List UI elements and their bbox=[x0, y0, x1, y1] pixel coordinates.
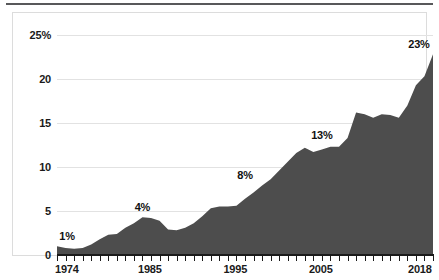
x-axis-tick bbox=[271, 256, 272, 261]
x-axis-tick bbox=[348, 256, 349, 261]
x-axis-tick bbox=[356, 256, 357, 261]
x-axis-tick bbox=[219, 256, 220, 261]
x-axis-tick bbox=[117, 256, 118, 261]
x-axis-tick bbox=[296, 256, 297, 261]
x-axis-tick bbox=[228, 256, 229, 261]
x-axis-tick bbox=[339, 256, 340, 261]
y-axis-tick-label: 20 bbox=[39, 73, 51, 85]
chart-figure: 25%20151050 1%4%8%13%23% 197419851995200… bbox=[12, 12, 427, 256]
x-axis-tick bbox=[134, 256, 135, 261]
x-axis-tick bbox=[125, 256, 126, 261]
top-divider-rule bbox=[6, 3, 433, 5]
x-axis-tick bbox=[168, 256, 169, 261]
y-axis-tick-label: 10 bbox=[39, 161, 51, 173]
x-axis-tick bbox=[433, 256, 434, 261]
x-axis-tick bbox=[365, 256, 366, 261]
x-axis-tick bbox=[236, 256, 237, 261]
figure-caption bbox=[12, 268, 427, 280]
x-axis-tick bbox=[74, 256, 75, 261]
x-axis-tick bbox=[262, 256, 263, 261]
plot-area: 1%4%8%13%23% bbox=[57, 35, 433, 255]
x-axis-tick bbox=[288, 256, 289, 261]
x-axis-tick bbox=[83, 256, 84, 261]
y-axis-tick-label: 5 bbox=[45, 205, 51, 217]
x-axis-tick bbox=[330, 256, 331, 261]
x-axis-tick bbox=[142, 256, 143, 261]
y-axis-tick-label: 25% bbox=[30, 29, 51, 41]
y-axis-tick-label: 15 bbox=[39, 117, 51, 129]
x-axis-tick bbox=[66, 256, 67, 261]
data-point-label: 23% bbox=[408, 38, 429, 50]
x-axis-tick bbox=[194, 256, 195, 261]
x-axis-tick bbox=[91, 256, 92, 261]
x-axis-tick bbox=[57, 256, 58, 261]
x-axis-tick bbox=[407, 256, 408, 261]
x-axis-tick bbox=[399, 256, 400, 261]
x-axis-tick bbox=[160, 256, 161, 261]
x-axis-tick bbox=[373, 256, 374, 261]
x-axis-tick bbox=[382, 256, 383, 261]
x-axis-tick bbox=[416, 256, 417, 261]
area-series bbox=[57, 35, 433, 255]
x-axis-tick bbox=[100, 256, 101, 261]
x-axis-tick bbox=[254, 256, 255, 261]
x-axis-tick bbox=[151, 256, 152, 261]
x-axis-tick bbox=[279, 256, 280, 261]
y-axis-tick-labels: 25%20151050 bbox=[23, 35, 51, 255]
y-axis-tick-label: 0 bbox=[45, 249, 51, 261]
x-axis-tick bbox=[305, 256, 306, 261]
data-point-label: 1% bbox=[59, 230, 75, 242]
x-axis-tick bbox=[177, 256, 178, 261]
x-axis-tick bbox=[108, 256, 109, 261]
data-point-label: 13% bbox=[311, 129, 332, 141]
x-axis-tick bbox=[245, 256, 246, 261]
x-axis-tick bbox=[322, 256, 323, 261]
x-axis-ticks bbox=[57, 256, 434, 262]
x-axis-tick bbox=[313, 256, 314, 261]
data-point-label: 8% bbox=[237, 169, 253, 181]
x-axis-tick bbox=[211, 256, 212, 261]
data-point-label: 4% bbox=[135, 201, 151, 213]
x-axis-tick bbox=[202, 256, 203, 261]
x-axis-tick bbox=[424, 256, 425, 261]
x-axis-tick bbox=[390, 256, 391, 261]
x-axis-tick bbox=[185, 256, 186, 261]
area-fill bbox=[57, 54, 433, 255]
